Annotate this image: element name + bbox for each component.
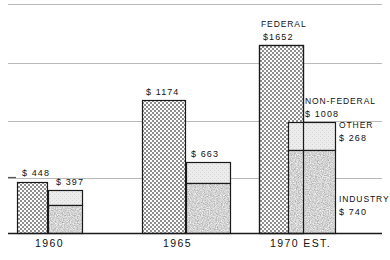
bar-1970-other (289, 123, 336, 151)
value-label-1960-federal: $ 448 (22, 168, 50, 179)
x-tick-label-1970: 1970 EST. (270, 238, 331, 249)
value-label-industry: $ 740 (339, 207, 367, 218)
bar-1965-other (187, 163, 231, 184)
value-label-1960-nonfederal: $ 397 (56, 177, 84, 188)
series-label-federal: FEDERAL (261, 19, 307, 30)
bar-group-1970 (260, 46, 336, 234)
bar-group-1965 (143, 101, 231, 234)
bar-1970-industry (289, 151, 336, 234)
value-label-1970-federal: $1652 (263, 32, 294, 43)
value-label-1970-nonfederal: $ 1008 (305, 109, 339, 120)
bar-1960-federal (18, 183, 48, 234)
series-label-industry: INDUSTRY (339, 194, 390, 205)
series-label-nonfederal: NON-FEDERAL (305, 96, 376, 107)
bar-group-1960 (18, 183, 83, 234)
bar-1960-other (49, 191, 83, 206)
value-label-1965-nonfederal: $ 663 (191, 149, 219, 160)
chart-canvas (0, 0, 390, 260)
bar-1960-industry (49, 206, 83, 234)
bar-chart: $ 448 $ 397 $ 1174 $ 663 FEDERAL $1652 N… (0, 0, 390, 260)
x-tick-label-1965: 1965 (163, 238, 192, 249)
x-tick-label-1960: 1960 (35, 238, 64, 249)
value-label-other: $ 268 (339, 133, 367, 144)
bar-1965-federal (143, 101, 186, 234)
bar-1965-industry (187, 184, 231, 234)
series-label-other: OTHER (339, 120, 373, 131)
value-label-1965-federal: $ 1174 (146, 87, 179, 98)
